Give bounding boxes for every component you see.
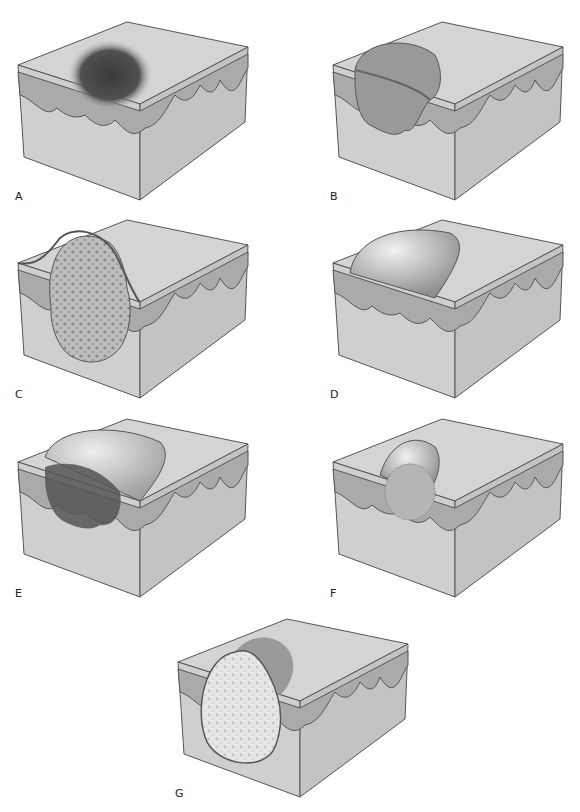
panel-b: B — [330, 20, 570, 205]
panel-label: A — [15, 190, 23, 203]
panel-e: E — [15, 417, 255, 602]
skin-block-plaque-illustration — [330, 20, 570, 205]
panel-label: G — [175, 787, 184, 800]
panel-label: C — [15, 388, 23, 401]
skin-block-vesicle-illustration — [330, 218, 570, 403]
skin-block-nodule-illustration — [15, 218, 255, 403]
panel-a: A — [15, 20, 255, 205]
skin-block-dark-mass-illustration — [15, 417, 255, 602]
panel-label: F — [330, 587, 336, 600]
skin-block-small-nodule-illustration — [330, 417, 570, 602]
skin-block-pustule-illustration — [175, 617, 415, 802]
panel-label: B — [330, 190, 338, 203]
panel-g: G — [175, 617, 415, 802]
panel-c: C — [15, 218, 255, 403]
panel-d: D — [330, 218, 570, 403]
panel-f: F — [330, 417, 570, 602]
panel-label: E — [15, 587, 22, 600]
panel-label: D — [330, 388, 338, 401]
skin-block-macule-illustration — [15, 20, 255, 205]
